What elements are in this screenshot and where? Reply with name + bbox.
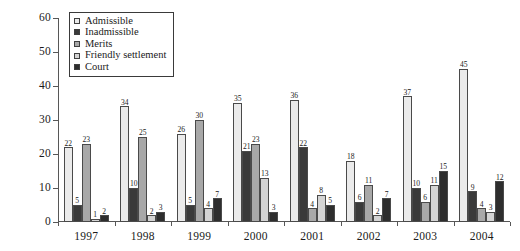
bar[interactable]: 2	[147, 215, 156, 222]
bar-slot: 23	[251, 18, 260, 222]
bar[interactable]: 23	[251, 144, 260, 222]
bar[interactable]: 3	[486, 212, 495, 222]
bar[interactable]: 5	[73, 205, 82, 222]
bar[interactable]: 7	[213, 198, 222, 222]
bar-slot: 30	[195, 18, 204, 222]
x-axis-tick-label: 2003	[413, 231, 437, 243]
bar-slot: 5	[186, 18, 195, 222]
bar[interactable]: 22	[64, 147, 73, 222]
bar-slot: 4	[308, 18, 317, 222]
y-axis-tick-label: 10	[39, 182, 51, 194]
bar-slot: 11	[430, 18, 439, 222]
bar[interactable]: 21	[242, 151, 251, 222]
x-axis-tick-mark	[397, 222, 398, 226]
x-axis-tick-label: 2000	[244, 231, 268, 243]
bar-slot: 10	[412, 18, 421, 222]
x-axis-tick-mark	[171, 222, 172, 226]
bar-value-label: 2	[150, 208, 154, 216]
bar-value-label: 9	[471, 184, 475, 192]
bar-slot: 3	[486, 18, 495, 222]
bar[interactable]: 3	[269, 212, 278, 222]
bar-value-label: 5	[188, 197, 192, 205]
bar-slot: 36	[290, 18, 299, 222]
bar-group: 18611272002	[341, 18, 398, 222]
bar-value-label: 15	[439, 163, 447, 171]
legend-swatch-icon	[74, 64, 80, 70]
bar[interactable]: 1	[91, 219, 100, 222]
legend-item[interactable]: Friendly settlement	[74, 50, 166, 62]
bar[interactable]: 15	[439, 171, 448, 222]
legend-label: Merits	[85, 39, 112, 50]
bar-value-label: 2	[376, 208, 380, 216]
bar[interactable]: 2	[100, 215, 109, 222]
bar[interactable]: 7	[382, 198, 391, 222]
bar-slot: 15	[439, 18, 448, 222]
bar[interactable]: 34	[120, 106, 129, 222]
bar[interactable]: 45	[459, 69, 468, 222]
bar-value-label: 26	[177, 126, 185, 134]
bar[interactable]: 6	[355, 202, 364, 222]
bar[interactable]: 8	[317, 195, 326, 222]
bar-slot: 6	[355, 18, 364, 222]
bar[interactable]: 9	[468, 191, 477, 222]
legend-label: Court	[85, 62, 109, 73]
bar-chart: 0102030405060 22523121997341025231998265…	[0, 0, 520, 251]
x-axis-tick-mark	[510, 222, 511, 226]
bar[interactable]: 11	[430, 185, 439, 222]
bar-group: 45943122004	[454, 18, 511, 222]
bar[interactable]: 4	[308, 208, 317, 222]
bar[interactable]: 5	[326, 205, 335, 222]
bar[interactable]: 11	[364, 185, 373, 222]
bar[interactable]: 4	[204, 208, 213, 222]
x-axis-tick-label: 1998	[131, 231, 155, 243]
bar-value-label: 37	[403, 89, 411, 97]
bar-value-label: 1	[93, 211, 97, 219]
bar-slot: 6	[421, 18, 430, 222]
bar-slot: 2	[373, 18, 382, 222]
bar[interactable]: 37	[403, 96, 412, 222]
bar[interactable]: 26	[177, 134, 186, 222]
bar[interactable]: 23	[82, 144, 91, 222]
bar-value-label: 23	[252, 136, 260, 144]
bar[interactable]: 6	[421, 202, 430, 222]
x-axis-tick-mark	[115, 222, 116, 226]
x-axis-tick-mark	[454, 222, 455, 226]
x-axis-tick-mark	[284, 222, 285, 226]
legend-item[interactable]: Admissible	[74, 15, 166, 27]
bar[interactable]: 10	[412, 188, 421, 222]
bar[interactable]: 25	[138, 137, 147, 222]
x-axis-tick-label: 1997	[74, 231, 98, 243]
bar-slot: 35	[233, 18, 242, 222]
y-axis-tick-label: 50	[39, 46, 51, 58]
bar[interactable]: 12	[495, 181, 504, 222]
chart-legend: AdmissibleInadmissibleMeritsFriendly set…	[69, 12, 174, 77]
bar-value-label: 3	[272, 204, 276, 212]
bar-value-label: 4	[310, 201, 314, 209]
bar-value-label: 3	[489, 204, 493, 212]
bar-value-label: 22	[299, 140, 307, 148]
bar[interactable]: 22	[299, 147, 308, 222]
bar-value-label: 34	[121, 99, 129, 107]
legend-item[interactable]: Court	[74, 61, 166, 73]
bar-value-label: 35	[234, 95, 242, 103]
bar[interactable]: 4	[477, 208, 486, 222]
bar[interactable]: 13	[260, 178, 269, 222]
bar-slot: 9	[468, 18, 477, 222]
bar[interactable]: 5	[186, 205, 195, 222]
bar[interactable]: 30	[195, 120, 204, 222]
bar[interactable]: 18	[346, 161, 355, 222]
bar[interactable]: 2	[373, 215, 382, 222]
x-axis-tick-label: 1999	[187, 231, 211, 243]
bar-value-label: 21	[243, 143, 251, 151]
bar-value-label: 13	[261, 170, 269, 178]
y-axis-tick-label: 40	[39, 80, 51, 92]
legend-item[interactable]: Inadmissible	[74, 27, 166, 39]
x-axis-tick-label: 2001	[300, 231, 324, 243]
bar-value-label: 5	[328, 197, 332, 205]
legend-item[interactable]: Merits	[74, 38, 166, 50]
bar[interactable]: 3	[156, 212, 165, 222]
bar[interactable]: 36	[290, 100, 299, 222]
bar[interactable]: 10	[129, 188, 138, 222]
bar-value-label: 25	[139, 129, 147, 137]
bar[interactable]: 35	[233, 103, 242, 222]
